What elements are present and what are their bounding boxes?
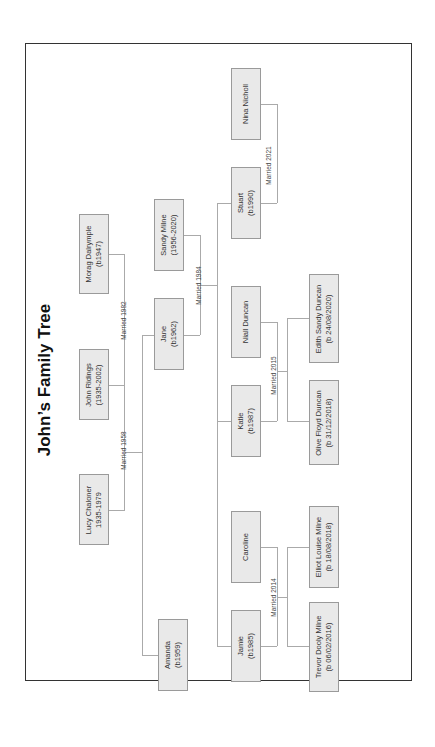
person-box-amanda[interactable]: Amanda(b1959) xyxy=(158,619,188,691)
label-text: Married 2015 xyxy=(270,356,277,394)
person-box-edith-sandy-duncan[interactable]: Edith Sandy Duncan(b 24/08/2020) xyxy=(309,274,339,363)
marriage-label-lucy-john: Married 1958 xyxy=(113,415,133,485)
connector xyxy=(217,203,231,204)
label-text: Married 1958 xyxy=(120,431,127,469)
person-box-jamie[interactable]: Jamie(b1985) xyxy=(231,610,261,682)
person-box-nina-nicholl[interactable]: Nina Nicholl xyxy=(231,68,261,140)
person-dates: (b1947) xyxy=(94,241,104,267)
person-dates: (b1985) xyxy=(246,633,256,659)
person-name: Caroline xyxy=(241,533,251,561)
person-name: Jane xyxy=(159,326,169,342)
connector xyxy=(217,646,231,647)
person-box-olive-floyd-duncan[interactable]: Olive Floyd Duncan(b 31/12/2018) xyxy=(309,380,339,465)
person-name: Olive Floyd Duncan xyxy=(314,390,324,455)
connector xyxy=(287,421,309,422)
person-box-niall-duncan[interactable]: Niall Duncan xyxy=(231,286,261,358)
person-box-trevor-dooly-milne[interactable]: Trevor Dooly Milne(b 06/02/2016) xyxy=(309,602,339,692)
connector xyxy=(261,547,277,548)
person-name: Lucy Chaloner xyxy=(84,485,94,533)
person-name: Morag Dalrymple xyxy=(84,225,94,282)
person-dates: (b 31/12/2018) xyxy=(324,398,334,447)
person-box-morag-dalrymple[interactable]: Morag Dalrymple(b1947) xyxy=(79,214,109,294)
person-name: Sandy Milne xyxy=(159,214,169,255)
person-dates: 1935-1979 xyxy=(94,492,104,528)
connector xyxy=(261,104,277,105)
person-box-stuart[interactable]: Stuart(b1990) xyxy=(231,167,261,239)
connector xyxy=(261,203,277,204)
person-name: Stuart xyxy=(236,193,246,213)
person-dates: (b 18/08/2018) xyxy=(324,523,334,572)
connector xyxy=(109,254,124,255)
title-text: John’s Family Tree xyxy=(35,304,55,456)
person-dates: (b1959) xyxy=(173,642,183,668)
person-name: Amanda xyxy=(163,641,173,669)
children-line-katie-niall xyxy=(287,318,288,422)
label-text: Married 1982 xyxy=(120,301,127,339)
person-dates: (b1987) xyxy=(246,408,256,434)
connector xyxy=(261,421,277,422)
connector xyxy=(109,385,124,386)
person-dates: (b 24/08/2020) xyxy=(324,294,334,343)
marriage-label-jamie-caroline: Married 2014 xyxy=(263,562,283,632)
person-name: Elliot Louise Milne xyxy=(314,517,324,577)
person-box-john-ridings[interactable]: John Ridings(1935-2002) xyxy=(79,349,109,420)
person-box-lucy-chaloner[interactable]: Lucy Chaloner1935-1979 xyxy=(79,474,109,545)
person-name: Nina Nicholl xyxy=(241,84,251,124)
connector xyxy=(184,335,200,336)
label-text: Married 1984 xyxy=(195,266,202,304)
connector xyxy=(217,421,231,422)
label-text: Married 2014 xyxy=(270,578,277,616)
person-box-elliot-louise-milne[interactable]: Elliot Louise Milne(b 18/08/2018) xyxy=(309,506,339,588)
connector xyxy=(109,510,124,511)
person-box-jane[interactable]: Jane(b1962) xyxy=(154,298,184,370)
marriage-label-katie-niall: Married 2015 xyxy=(263,340,283,410)
children-line-jane-sandy xyxy=(217,203,218,647)
label-text: Married 2021 xyxy=(265,146,272,184)
person-box-sandy-milne[interactable]: Sandy Milne(1956-2020) xyxy=(154,199,184,271)
marriage-label-john-morag: Married 1982 xyxy=(113,285,133,355)
person-dates: (1956-2020) xyxy=(169,215,179,256)
page-title: John’s Family Tree xyxy=(30,300,60,460)
connector xyxy=(261,322,277,323)
person-box-caroline[interactable]: Caroline xyxy=(231,511,261,583)
connector xyxy=(287,646,309,647)
person-dates: (1935-2002) xyxy=(94,364,104,405)
connector xyxy=(142,655,158,656)
connector xyxy=(261,646,277,647)
marriage-label-jane-sandy: Married 1984 xyxy=(188,250,208,320)
person-dates: (b 06/02/2016) xyxy=(324,623,334,672)
person-name: Niall Duncan xyxy=(241,301,251,344)
person-dates: (b1962) xyxy=(169,321,179,347)
connector xyxy=(184,235,200,236)
person-box-katie[interactable]: Katie(b1987) xyxy=(231,385,261,457)
person-name: John Ridings xyxy=(84,363,94,406)
marriage-label-stuart-nina: Married 2021 xyxy=(258,130,278,200)
person-name: Edith Sandy Duncan xyxy=(314,284,324,352)
person-name: Trevor Dooly Milne xyxy=(314,616,324,679)
person-name: Jamie xyxy=(236,636,246,656)
connector xyxy=(287,547,309,548)
children-line-lucy-john xyxy=(142,335,143,656)
children-line-jamie-caroline xyxy=(287,547,288,647)
connector xyxy=(287,318,309,319)
person-dates: (b1990) xyxy=(246,190,256,216)
person-name: Katie xyxy=(236,412,246,429)
connector xyxy=(142,335,154,336)
